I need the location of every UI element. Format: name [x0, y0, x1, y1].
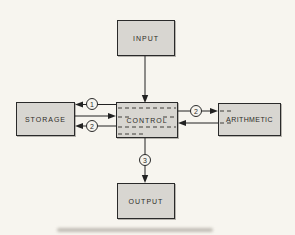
block-output-label: OUTPUT	[129, 198, 164, 205]
arrowhead-into-control-right	[178, 120, 186, 126]
block-output: OUTPUT	[117, 183, 175, 219]
block-input-label: INPUT	[133, 35, 159, 42]
block-arithmetic: ARITHMETIC	[218, 103, 281, 136]
arrowhead-into-storage-1	[75, 102, 83, 108]
arrowhead-into-control-left	[108, 113, 116, 119]
arrowhead-into-arithmetic	[210, 108, 218, 114]
arrowhead-into-storage-2	[75, 123, 83, 129]
block-arithmetic-label: ARITHMETIC	[226, 116, 273, 123]
path-marker-2-right-label: 2	[194, 108, 198, 115]
path-marker-2-right: 2	[190, 105, 202, 117]
path-marker-2-left-label: 2	[90, 123, 94, 130]
block-storage-label: STORAGE	[25, 116, 66, 123]
path-marker-1: 1	[86, 98, 98, 110]
path-marker-1-label: 1	[90, 101, 94, 108]
diagram-canvas: INPUT STORAGE CONTROL ARITHMETIC OUTPUT	[0, 0, 295, 235]
block-control-label: CONTROL	[126, 117, 167, 124]
path-marker-2-left: 2	[86, 120, 98, 132]
path-marker-3: 3	[139, 154, 151, 166]
arrowhead-into-output	[142, 175, 148, 183]
block-control: CONTROL	[116, 102, 178, 138]
block-storage: STORAGE	[16, 102, 75, 136]
path-marker-3-label: 3	[143, 157, 147, 164]
caption-smudge	[57, 228, 213, 232]
block-input: INPUT	[117, 20, 175, 56]
